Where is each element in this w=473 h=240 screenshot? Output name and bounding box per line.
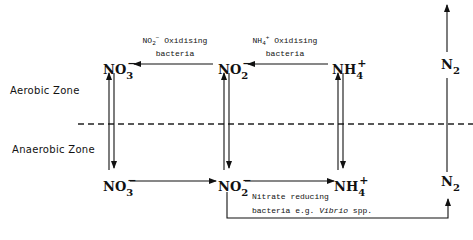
anaerobic-zone-label: Anaerobic Zone [12,144,95,155]
anaerobic-n2: N2 [441,175,460,193]
nh4-oxidising-bacteria-label: NH4+ Oxidising bacteria [250,34,320,58]
aerobic-nh4: NH4+ [332,58,366,81]
aerobic-n2: N2 [441,58,460,76]
anaerobic-no3: NO3− [103,175,136,198]
nitrate-reducing-bacteria-label: Nitrate reducing bacteria e.g. Vibrio sp… [252,192,372,215]
anaerobic-no2: NO2− [218,175,251,198]
aerobic-zone-label: Aerobic Zone [10,85,80,96]
aerobic-no3: NO3− [103,58,136,81]
no2-oxidising-bacteria-label: NO2− Oxidising bacteria [140,34,210,58]
aerobic-no2: NO2− [218,58,251,81]
